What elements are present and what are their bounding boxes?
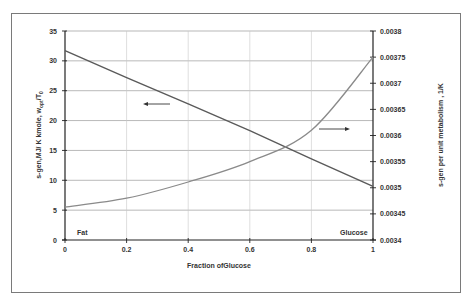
x-tick-label: 0.8	[307, 246, 317, 253]
fat-label: Fat	[77, 229, 88, 236]
glucose-label: Glucose	[340, 229, 368, 236]
x-tick-label: 0.2	[122, 246, 132, 253]
y2-tick-label: 0.0034	[380, 237, 402, 244]
y-tick-label: 15	[49, 147, 57, 154]
right-arrow-icon	[319, 127, 350, 131]
gridlines	[65, 31, 373, 240]
y-tick-label: 0	[53, 237, 57, 244]
y-tick-label: 5	[53, 207, 57, 214]
y2-tick-label: 0.00375	[380, 54, 405, 61]
y2-tick-label: 0.00365	[380, 106, 405, 113]
left-arrow-icon	[143, 102, 170, 106]
x-tick-label: 0.6	[245, 246, 255, 253]
y2-tick-label: 0.0036	[380, 132, 402, 139]
y2-tick-label: 0.0035	[380, 184, 402, 191]
x-tick-label: 0	[63, 246, 67, 253]
y2-tick-label: 0.0038	[380, 28, 402, 35]
x-tick-label: 0.4	[183, 246, 193, 253]
y-tick-label: 30	[49, 57, 57, 64]
x-tick-label: 1	[371, 246, 375, 253]
y-tick-label: 20	[49, 117, 57, 124]
axes: 0510152025303500.20.40.60.810.00340.0034…	[49, 28, 405, 254]
y-tick-label: 10	[49, 177, 57, 184]
y2-tick-label: 0.0037	[380, 80, 402, 87]
y2-tick-label: 0.00355	[380, 158, 405, 165]
y-tick-label: 25	[49, 87, 57, 94]
fat-glucose-sgen-line	[65, 51, 373, 187]
y2-tick-label: 0.00345	[380, 210, 405, 217]
x-axis-title: Fraction ofGlucose	[187, 262, 251, 269]
y2-axis-title: s-gen per unit metabolism , 1/K	[437, 83, 445, 187]
y-axis-title: s-gen,MJ/ K kmole, wopt/T0	[35, 91, 44, 179]
sgen-per-metabolism-curve	[65, 57, 373, 207]
y-tick-label: 35	[49, 28, 57, 35]
